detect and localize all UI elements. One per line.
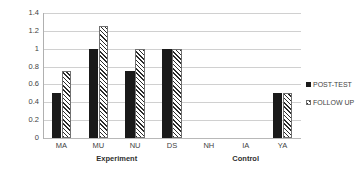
y-tick-label: 0 (3, 134, 39, 142)
group-labels: ExperimentControl (43, 154, 301, 166)
bar-ds-follow-up (172, 49, 182, 138)
y-axis-labels: 1.41.210.80.60.40.20 (0, 13, 39, 138)
group-label-control: Control (190, 154, 301, 164)
x-tick-label-ia: IA (227, 141, 264, 151)
bar-mu-post-test (89, 49, 99, 138)
bar-ds-post-test (162, 49, 172, 138)
bar-chart: 1.41.210.80.60.40.20 MAMUNUDSNHIAYA Expe… (0, 0, 356, 175)
x-tick-label-mu: MU (80, 141, 117, 151)
x-axis-labels: MAMUNUDSNHIAYA (43, 141, 301, 153)
solid-square-icon (306, 82, 311, 87)
bar-mu-follow-up (99, 26, 109, 138)
bar-ya-post-test (273, 93, 283, 138)
y-tick-label: 0.8 (3, 63, 39, 71)
legend-item-follow-up: FOLLOW UP (306, 97, 356, 108)
group-label-experiment: Experiment (43, 154, 190, 164)
y-tick-label: 1 (3, 45, 39, 53)
bar-nu-follow-up (135, 49, 145, 138)
x-tick-label-ma: MA (43, 141, 80, 151)
legend-label: POST-TEST (313, 81, 352, 89)
x-axis-baseline (43, 138, 301, 139)
y-tick-label: 0.6 (3, 80, 39, 88)
x-tick-label-nu: NU (117, 141, 154, 151)
bar-nu-post-test (125, 71, 135, 138)
bar-ya-follow-up (283, 93, 293, 138)
chart-legend: POST-TESTFOLLOW UP (306, 79, 356, 115)
x-tick-label-ya: YA (264, 141, 301, 151)
y-tick-label: 1.2 (3, 27, 39, 35)
y-tick-label: 1.4 (3, 9, 39, 17)
x-tick-label-nh: NH (190, 141, 227, 151)
y-tick-label: 0.2 (3, 116, 39, 124)
x-tick-label-ds: DS (154, 141, 191, 151)
y-tick-label: 0.4 (3, 98, 39, 106)
legend-item-post-test: POST-TEST (306, 79, 356, 90)
hatched-square-icon (306, 100, 311, 105)
bars-layer (43, 13, 301, 138)
bar-ma-post-test (52, 93, 62, 138)
legend-label: FOLLOW UP (313, 99, 354, 107)
bar-ma-follow-up (62, 71, 72, 138)
